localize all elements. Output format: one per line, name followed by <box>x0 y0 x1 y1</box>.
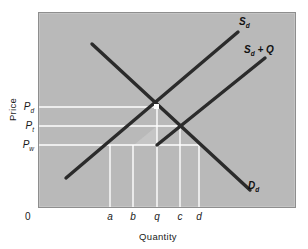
origin-label: 0 <box>25 211 31 222</box>
x-tick-q: q <box>150 211 164 222</box>
curve-label-sd-plus-q: Sd + Q <box>244 44 274 57</box>
y-tick-pt: Pt <box>8 120 34 133</box>
supply-demand-figure: Price Quantity 0 Pd Pt Pw a b q c d Sd S… <box>0 0 308 249</box>
demand-curve-dd <box>92 44 250 190</box>
x-axis-title: Quantity <box>108 231 208 242</box>
equilibrium-marker <box>154 104 159 109</box>
x-tick-b: b <box>126 211 140 222</box>
x-tick-d: d <box>192 211 206 222</box>
x-tick-a: a <box>103 211 117 222</box>
plot-canvas <box>39 13 295 207</box>
curve-label-dd: Dd <box>248 180 259 193</box>
y-tick-pd: Pd <box>8 101 34 114</box>
plot-area <box>38 12 296 208</box>
curve-label-sd: Sd <box>239 16 250 29</box>
y-tick-pw: Pw <box>8 139 34 152</box>
x-tick-c: c <box>173 211 187 222</box>
supply-curve-sd-plus-q <box>157 58 265 145</box>
